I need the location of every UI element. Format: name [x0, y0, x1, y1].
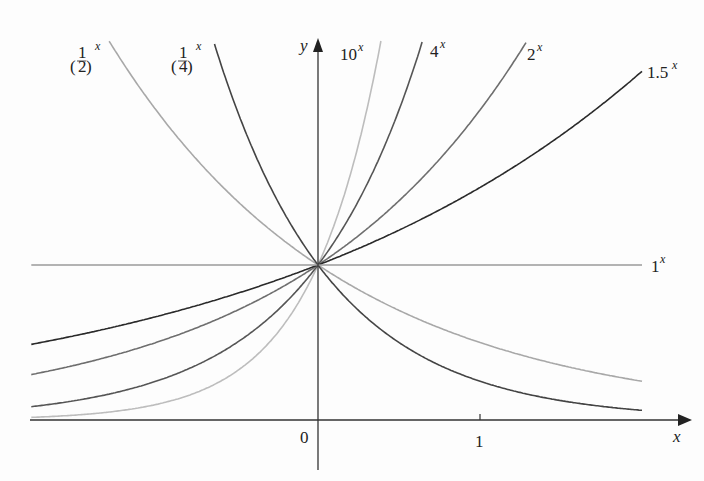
x-tick-label-1: 1 — [475, 432, 484, 451]
svg-text:10: 10 — [340, 45, 357, 64]
svg-text:x: x — [195, 39, 202, 53]
label-one-pow-x: 1 x — [651, 252, 666, 276]
paren-left: ( — [70, 57, 76, 76]
svg-text:x: x — [671, 58, 678, 72]
svg-text:2: 2 — [527, 45, 536, 64]
svg-text:x: x — [536, 40, 543, 54]
y-axis-label: y — [298, 36, 308, 55]
svg-text:x: x — [94, 39, 101, 53]
curve-4x — [31, 42, 422, 407]
exponential-functions-chart: x y 0 1 ( 1 2 ) x ( 1 4 ) x 10 x 4 x — [0, 0, 704, 481]
x-axis-arrow-icon — [678, 414, 692, 426]
svg-text:(: ( — [171, 57, 177, 76]
label-two-pow-x: 2 x — [527, 40, 543, 64]
chart-container: x y 0 1 ( 1 2 ) x ( 1 4 ) x 10 x 4 x — [0, 0, 704, 481]
curves-group — [31, 41, 642, 417]
svg-text:x: x — [659, 252, 666, 266]
svg-text:1.5: 1.5 — [647, 63, 668, 82]
svg-text:x: x — [357, 40, 364, 54]
svg-text:x: x — [439, 37, 446, 51]
x-tick-label-0: 0 — [300, 428, 309, 447]
curve-14x — [215, 44, 643, 410]
y-axis-arrow-icon — [313, 38, 323, 52]
label-half-pow-x: ( 1 2 ) x — [70, 39, 101, 76]
svg-text:4: 4 — [430, 42, 439, 61]
curve-1-5x — [31, 71, 642, 344]
label-onefive-pow-x: 1.5 x — [647, 58, 678, 82]
svg-text:1: 1 — [651, 257, 660, 276]
label-ten-pow-x: 10 x — [340, 40, 364, 64]
svg-text:): ) — [187, 57, 193, 76]
label-quarter-pow-x: ( 1 4 ) x — [171, 39, 202, 76]
x-axis-label: x — [672, 427, 681, 446]
label-four-pow-x: 4 x — [430, 37, 446, 61]
paren-right: ) — [86, 57, 92, 76]
curve-2x — [31, 43, 526, 375]
